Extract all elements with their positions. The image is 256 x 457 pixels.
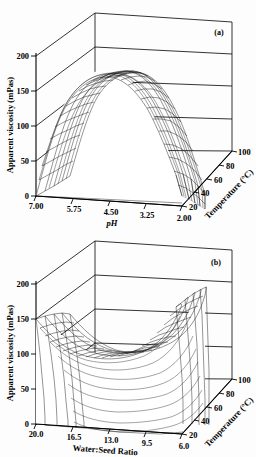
panel-b-x-tick-16.5: 16.5 <box>67 433 82 442</box>
panel-b-x-axis-title: Water:Seed Ratio <box>72 443 138 456</box>
panel-a-y-tick-80: 80 <box>226 162 234 171</box>
panel-a-z-tick-0: 0 <box>25 192 29 201</box>
panel-b-z-tick-100: 100 <box>16 350 29 359</box>
panel-b-surface-plot: 200 150 100 50 0 Apparent viscosity (mPa… <box>0 228 256 456</box>
panel-a-z-axis: 200 150 100 50 0 Apparent viscosity (mPa… <box>5 52 36 201</box>
panel-a-x-tick-3.25: 3.25 <box>140 211 155 220</box>
panel-a-x-tick-7.00: 7.00 <box>29 202 44 211</box>
panel-b-x-tick-20.0: 20.0 <box>29 430 44 439</box>
panel-a-z-tick-50: 50 <box>21 157 29 166</box>
panel-b-z-tick-0: 0 <box>25 420 29 429</box>
panel-b-z-tick-50: 50 <box>21 385 29 394</box>
figure-container: 200 150 100 50 0 Apparent viscosity (mPa… <box>0 0 256 457</box>
panel-a-surface-plot: 200 150 100 50 0 Apparent viscosity (mPa… <box>0 0 256 228</box>
panel-b-y-tick-80: 80 <box>226 390 234 399</box>
panel-b-y-tick-20: 20 <box>189 431 197 440</box>
panel-b-x-tick-6.0: 6.0 <box>179 442 189 451</box>
panel-a-x-tick-5.75: 5.75 <box>67 205 82 214</box>
panel-a-x-axis-title: pH <box>106 218 118 228</box>
panel-b-surface-mesh <box>36 287 209 434</box>
panel-a-y-tick-40: 40 <box>201 189 209 198</box>
panel-b-x-tick-13.0: 13.0 <box>104 436 119 445</box>
panel-a-y-axis: 20 40 60 80 100 Temperature (°C) <box>182 148 255 221</box>
panel-a-z-axis-title: Apparent viscosity (mPas) <box>5 77 15 173</box>
panel-b-y-tick-100: 100 <box>238 376 251 385</box>
panel-a-z-tick-200: 200 <box>16 52 29 61</box>
panel-a-z-tick-100: 100 <box>16 122 29 131</box>
panel-b-label: (b) <box>211 258 221 267</box>
panel-b-y-tick-40: 40 <box>201 417 209 426</box>
panel-a-z-tick-150: 150 <box>16 87 29 96</box>
panel-a-x-tick-2.00: 2.00 <box>177 214 192 223</box>
panel-b-y-tick-60: 60 <box>214 404 222 413</box>
panel-a-y-tick-100: 100 <box>238 148 251 157</box>
panel-b-x-axis: 20.0 16.5 13.0 9.5 6.0 Water:Seed Ratio <box>29 424 190 456</box>
panel-b-z-tick-150: 150 <box>16 315 29 324</box>
panel-b-z-tick-200: 200 <box>16 280 29 289</box>
panel-a-label: (a) <box>214 28 224 37</box>
panel-a-surface-mesh <box>36 70 205 209</box>
panel-b-z-axis-title: Apparent viscosity (mPas) <box>5 305 15 401</box>
panel-a-y-tick-60: 60 <box>214 176 222 185</box>
panel-b-z-axis: 200 150 100 50 0 Apparent viscosity (mPa… <box>5 280 36 429</box>
panel-b-x-tick-9.5: 9.5 <box>142 439 152 448</box>
panel-a-x-tick-4.50: 4.50 <box>104 208 119 217</box>
panel-a-y-tick-20: 20 <box>189 203 197 212</box>
